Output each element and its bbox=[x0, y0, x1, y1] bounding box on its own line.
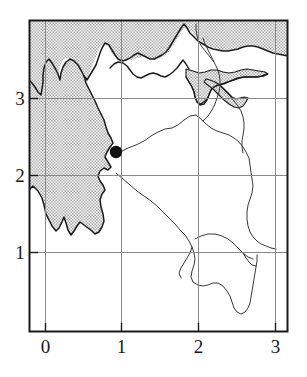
x-tick-label-0: 0 bbox=[41, 336, 51, 357]
map-svg: 0 1 2 3 3 2 1 bbox=[0, 0, 307, 377]
y-axis-tick-labels: 3 2 1 bbox=[15, 88, 25, 263]
y-tick-label-3: 3 bbox=[15, 88, 25, 109]
y-tick-label-1: 1 bbox=[15, 242, 25, 263]
y-tick-label-2: 2 bbox=[15, 165, 25, 186]
x-tick-label-1: 1 bbox=[117, 336, 127, 357]
map-figure: 0 1 2 3 3 2 1 bbox=[0, 0, 307, 377]
x-tick-label-3: 3 bbox=[271, 336, 281, 357]
city-marker[interactable] bbox=[110, 146, 122, 158]
x-tick-label-2: 2 bbox=[194, 336, 204, 357]
x-axis-tick-labels: 0 1 2 3 bbox=[41, 336, 281, 357]
